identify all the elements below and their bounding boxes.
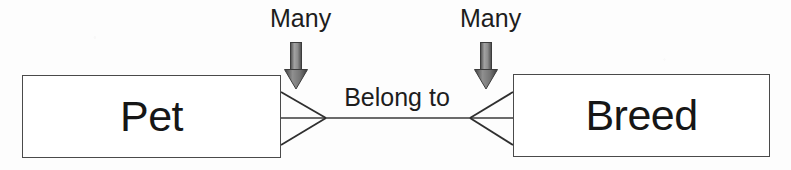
cardinality-label-right: Many [460, 6, 521, 31]
entity-breed[interactable]: Breed [513, 74, 770, 157]
entity-pet-label: Pet [120, 95, 183, 138]
down-arrow-icon-left [284, 42, 308, 90]
entity-pet[interactable]: Pet [22, 75, 281, 158]
relationship-label: Belong to [336, 85, 458, 110]
entity-breed-label: Breed [585, 94, 697, 137]
down-arrow-icon-right [474, 42, 498, 90]
er-diagram-canvas: Pet Breed Belong to Many Many [0, 0, 791, 170]
cardinality-label-left: Many [270, 6, 331, 31]
